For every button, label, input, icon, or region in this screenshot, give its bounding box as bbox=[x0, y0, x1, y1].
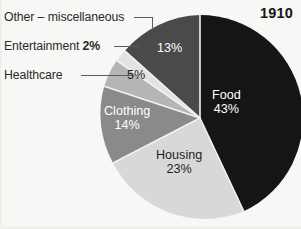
slice-label-clothing-percent: 14% bbox=[104, 118, 150, 132]
leader-line-other-vertical bbox=[152, 17, 153, 28]
slice-label-housing-percent: 23% bbox=[156, 162, 202, 176]
callout-label-entertainment: Entertainment 2% bbox=[4, 39, 100, 53]
slice-label-clothing: Clothing 14% bbox=[104, 104, 150, 132]
callout-entertainment-name: Entertainment bbox=[4, 39, 83, 53]
callout-entertainment-percent: 2% bbox=[83, 39, 101, 53]
slice-label-healthcare: 5% bbox=[127, 68, 145, 82]
leader-line-healthcare bbox=[81, 75, 133, 76]
slice-label-housing: Housing 23% bbox=[156, 148, 202, 176]
chart-title: 1910 bbox=[260, 5, 293, 21]
slice-label-food-name: Food bbox=[212, 88, 241, 102]
slice-label-clothing-name: Clothing bbox=[104, 104, 150, 118]
leader-line-other-horizontal bbox=[134, 17, 153, 18]
slice-label-other-percent: 13% bbox=[157, 41, 182, 55]
slice-label-other: 13% bbox=[157, 41, 182, 55]
slice-label-food-percent: 43% bbox=[212, 102, 241, 116]
pie-chart-graphic bbox=[0, 0, 301, 229]
callout-label-other: Other – miscellaneous bbox=[4, 10, 124, 24]
slice-label-food: Food 43% bbox=[212, 88, 241, 116]
slice-label-housing-name: Housing bbox=[156, 148, 202, 162]
leader-line-entertainment bbox=[114, 46, 139, 47]
callout-label-healthcare: Healthcare bbox=[4, 68, 62, 82]
pie-chart-figure: 1910 Other – miscellaneous Entertainment… bbox=[0, 0, 301, 229]
slice-label-healthcare-percent: 5% bbox=[127, 68, 145, 82]
